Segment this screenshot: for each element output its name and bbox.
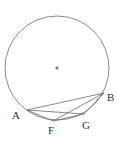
label-G: G (82, 119, 90, 131)
segment-FB (53, 93, 104, 121)
segment-FG (53, 114, 84, 121)
segment-AB (27, 93, 104, 110)
label-B: B (107, 91, 114, 103)
label-A: A (12, 109, 20, 121)
label-F: F (48, 124, 54, 136)
segment-GB (84, 93, 104, 114)
center-point (55, 66, 58, 69)
circle-diagram: A F G B (0, 0, 117, 141)
